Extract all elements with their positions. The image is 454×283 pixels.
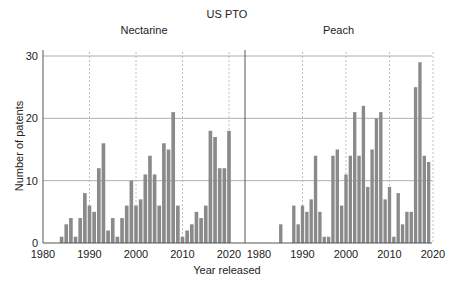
x-tick-label: 1980 [247, 248, 271, 260]
bar [64, 224, 68, 243]
y-tick-label: 10 [26, 175, 38, 187]
bar [314, 156, 317, 243]
bar [74, 237, 78, 243]
bar [102, 143, 106, 243]
bar [423, 156, 426, 243]
bar [111, 218, 115, 243]
bar [279, 224, 282, 243]
bar [60, 237, 64, 243]
bar [331, 156, 334, 243]
bar [227, 131, 231, 243]
x-tick-label: 1990 [290, 248, 314, 260]
bar [139, 199, 143, 243]
bar [414, 87, 417, 243]
y-tick-label: 20 [26, 112, 38, 124]
bar [388, 187, 391, 243]
bar [171, 112, 175, 243]
bar [327, 237, 330, 243]
bar [336, 150, 339, 244]
x-tick-label: 2000 [124, 248, 148, 260]
bar [134, 206, 138, 243]
x-tick-label: 1980 [31, 248, 55, 260]
bar [410, 212, 413, 243]
bar [190, 224, 194, 243]
bar [199, 218, 203, 243]
bar [204, 206, 208, 243]
chart-plot: 0102030198019902000201020201980199020002… [0, 0, 454, 283]
x-tick-label: 2020 [421, 248, 445, 260]
bar [88, 206, 92, 243]
bar [97, 168, 101, 243]
bar [310, 199, 313, 243]
bar [362, 106, 365, 243]
bar [106, 231, 110, 243]
bar [296, 224, 299, 243]
bar [379, 112, 382, 243]
bar [375, 118, 378, 243]
bar [418, 62, 421, 243]
bar [301, 206, 304, 243]
bar [357, 156, 360, 243]
bar [392, 237, 395, 243]
bar [130, 181, 134, 243]
bar [157, 206, 161, 243]
bar [209, 131, 213, 243]
bar [340, 206, 343, 243]
bar [181, 237, 185, 243]
bar [366, 187, 369, 243]
bar [213, 137, 217, 243]
bar [401, 224, 404, 243]
bar [427, 162, 430, 243]
bar [148, 156, 152, 243]
x-tick-label: 2020 [217, 248, 241, 260]
bar [153, 174, 157, 243]
x-tick-label: 2000 [334, 248, 358, 260]
bar [344, 174, 347, 243]
bar [397, 193, 400, 243]
bar [69, 218, 73, 243]
bar [318, 212, 321, 243]
x-tick-label: 2010 [377, 248, 401, 260]
bar [292, 206, 295, 243]
bar [323, 237, 326, 243]
bar [349, 156, 352, 243]
bar [125, 206, 129, 243]
bar [223, 168, 227, 243]
bar [405, 212, 408, 243]
bar [116, 237, 120, 243]
bar [120, 218, 124, 243]
bar [353, 112, 356, 243]
bar [218, 168, 222, 243]
bar [162, 143, 166, 243]
x-tick-label: 1990 [77, 248, 101, 260]
bar [83, 193, 87, 243]
bar [370, 150, 373, 244]
bar [176, 206, 180, 243]
bar [195, 212, 199, 243]
bar [305, 212, 308, 243]
bar [167, 150, 171, 244]
bar [92, 212, 96, 243]
y-tick-label: 30 [26, 50, 38, 62]
bar [78, 218, 82, 243]
bar [383, 199, 386, 243]
x-tick-label: 2010 [170, 248, 194, 260]
bar [143, 174, 147, 243]
bar [185, 231, 189, 243]
